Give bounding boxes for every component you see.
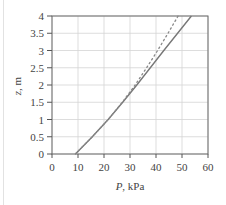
x-tick-label: 20 xyxy=(99,161,111,173)
y-tick-label: 0 xyxy=(39,148,45,160)
x-tick-label: 30 xyxy=(125,161,137,173)
x-tick-label: 40 xyxy=(151,161,163,173)
x-tick-label: 50 xyxy=(177,161,189,173)
x-tick-label: 10 xyxy=(73,161,85,173)
x-tick-label: 0 xyxy=(49,161,55,173)
x-tick-label: 60 xyxy=(203,161,215,173)
y-tick-label: 0.5 xyxy=(30,131,44,143)
y-tick-label: 4 xyxy=(39,10,45,22)
x-axis-label: P, kPa xyxy=(115,180,145,192)
y-tick-label: 1 xyxy=(39,114,45,126)
y-axis-ticks: 00.511.522.533.54 xyxy=(30,10,52,160)
y-tick-label: 2.5 xyxy=(30,62,44,74)
y-tick-label: 3.5 xyxy=(30,27,44,39)
x-axis-ticks: 0102030405060 xyxy=(49,154,214,173)
y-tick-label: 1.5 xyxy=(30,96,44,108)
y-axis-label: z, m xyxy=(11,76,23,96)
grid xyxy=(52,16,208,154)
chart: 0102030405060 00.511.522.533.54 P, kPa z… xyxy=(0,0,226,205)
y-tick-label: 3 xyxy=(39,45,45,57)
y-tick-label: 2 xyxy=(39,79,45,91)
